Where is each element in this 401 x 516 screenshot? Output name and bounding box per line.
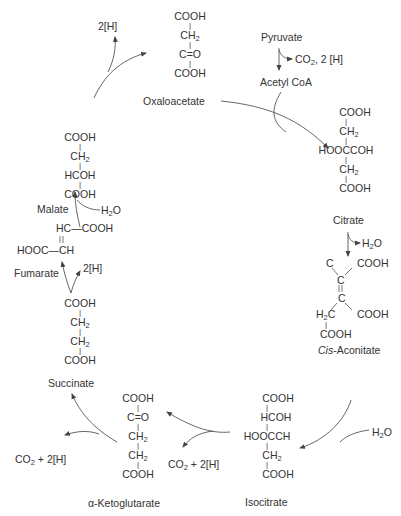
alpha-ketoglutarate-label: α-Ketoglutarate	[88, 497, 160, 509]
pyruvate-byproduct-label: CO2, 2 [H]	[295, 53, 343, 65]
fumarate-top-row: HC—COOH	[56, 222, 113, 234]
ketoglutarate-byproduct-label: CO2 + 2[H]	[15, 453, 66, 465]
acetylcoa-join-curve	[274, 92, 286, 132]
pyruvate-co2-out-arrow	[279, 50, 292, 59]
ketoglutarate-structure: COOH | C=O | CH2 | CH2 | COOH	[118, 392, 158, 480]
aconitate-c-mid1: C	[337, 274, 345, 286]
citrate-h2o-out-arrow	[348, 234, 360, 243]
acetyl-coa-label: Acetyl CoA	[260, 76, 312, 88]
citrate-label: Citrate	[333, 214, 364, 226]
fumarate-h2o-label: H2O	[101, 204, 121, 216]
aconitate-c-left: C	[326, 257, 334, 269]
aconitate-cooh-top: COOH	[357, 257, 389, 269]
malate-to-oxaloacetate-arrow	[94, 53, 146, 98]
ketoglutarate-to-succinate-arrow	[72, 394, 117, 442]
malate-2h-label: 2[H]	[98, 20, 117, 32]
aconitate-h2o-label: H2O	[372, 426, 392, 438]
isocitrate-label: Isocitrate	[245, 496, 288, 508]
pyruvate-label: Pyruvate	[261, 31, 302, 43]
malate-2h-out-arrow	[108, 37, 115, 72]
oxaloacetate-structure: COOH | CH2 | C=O | COOH	[170, 10, 210, 79]
fumarate-bottom-row: HOOC—CH	[17, 244, 74, 256]
aconitate-h2o-in-curve	[340, 430, 369, 442]
cis-aconitate-label: Cis-Aconitate	[318, 344, 380, 356]
succinate-2h-out-arrow	[71, 271, 80, 293]
succinate-label: Succinate	[48, 377, 94, 389]
citrate-h2o-label: H2O	[362, 237, 382, 249]
ketoglutarate-co2-out-arrow	[65, 431, 99, 435]
isocitrate-to-ketoglutarate-arrow	[167, 412, 230, 432]
aconitate-cooh-right: COOH	[357, 308, 389, 320]
aconitate-cooh-bottom: COOH	[320, 328, 352, 340]
succinate-structure: COOH | CH2 | CH2 | COOH	[60, 297, 100, 366]
isocitrate-byproduct-label: CO2 + 2[H]	[168, 458, 219, 470]
malate-label: Malate	[37, 203, 69, 215]
isocitrate-structure: COOH | HCOH | HOOCCH | CH2 | COOH	[232, 392, 302, 480]
succinate-to-fumarate-arrow	[62, 262, 71, 293]
citrate-structure: COOH | CH2 | HOOCCOH | CH2 | COOH	[314, 106, 378, 194]
oxaloacetate-label: Oxaloacetate	[143, 95, 205, 107]
aconitate-to-isocitrate-arrow	[300, 400, 351, 448]
isocitrate-co2-out-arrow	[183, 431, 213, 447]
malate-structure: COOH | CH2 | HCOH | COOH	[60, 131, 100, 200]
fumarate-h2o-in-curve	[77, 200, 100, 210]
fumarate-label: Fumarate	[14, 267, 59, 279]
aconitate-c-mid2: C	[338, 292, 346, 304]
succinate-2h-label: 2[H]	[83, 262, 102, 274]
